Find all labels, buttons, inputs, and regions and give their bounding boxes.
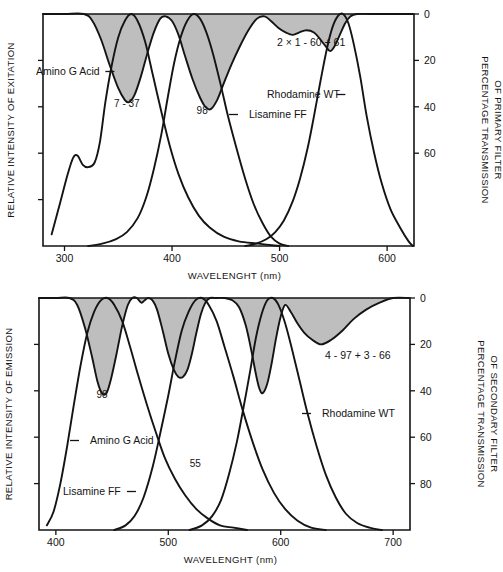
y-right-axis-title-line2: OF SECONDARY FILTER [489, 356, 500, 473]
x-axis-title: WAVELENGHT (nm) [188, 270, 281, 281]
y-left-axis-title: RELATIVE INTENSITY OF EXITATION [5, 42, 16, 217]
filter-combination-label: 2 × 1 - 60 + 61 [277, 36, 345, 48]
y-right-tick-label: 0 [420, 292, 426, 304]
y-right-axis-title-line1: PERCENTAGE TRANSMISSION [480, 56, 491, 204]
y-right-tick-label: 80 [420, 478, 432, 490]
y-right-tick-label: 20 [420, 338, 432, 350]
excitation-label-group: 300400500600WAVELENGHT (nm)RELATIVE INTE… [5, 8, 503, 281]
excitation-chart-svg: 300400500600WAVELENGHT (nm)RELATIVE INTE… [0, 0, 503, 286]
filter-number-annotation: 55 [190, 458, 202, 469]
filter-number-annotation: 98 [96, 389, 108, 400]
y-right-axis-title-line1: PERCENTAGE TRANSMISSION [476, 340, 487, 488]
x-tick-label: 600 [378, 252, 396, 264]
y-right-tick-label: 60 [424, 147, 436, 159]
x-tick-label: 400 [163, 252, 181, 264]
filter-number-annotation: 98 [197, 105, 209, 116]
x-tick-label: 400 [47, 536, 65, 548]
emission-chart-panel: 400500600700WAVELENGHT (nm)RELATIVE INTE… [0, 286, 503, 572]
x-axis-title: WAVELENGHT (nm) [184, 554, 277, 565]
y-right-tick-label: 20 [424, 54, 436, 66]
y-right-tick-label: 60 [420, 431, 432, 443]
series-label-lisamine-ff: Lisamine FF [249, 108, 307, 120]
y-right-tick-label: 40 [420, 385, 432, 397]
filter-number-annotation: 7 - 37 [114, 98, 140, 109]
y-left-axis-title: RELATIVE INTENSITY OF EMISSION [3, 328, 14, 501]
series-label-lisamine-ff: Lisamine FF [63, 485, 121, 497]
excitation-chart-panel: 300400500600WAVELENGHT (nm)RELATIVE INTE… [0, 0, 503, 286]
y-right-tick-label: 40 [424, 101, 436, 113]
series-label-rhodamine-wt: Rhodamine WT [267, 88, 341, 100]
emission-chart-svg: 400500600700WAVELENGHT (nm)RELATIVE INTE… [0, 286, 503, 572]
series-label-amino-g-acid: Amino G Acid [90, 434, 154, 446]
curve-lisamine-ff [114, 298, 325, 530]
y-right-axis-title-line2: OF PRIMARY FILTER [493, 80, 503, 179]
series-label-amino-g-acid: Amino G Acid [36, 65, 100, 77]
x-tick-label: 500 [271, 252, 289, 264]
x-tick-label: 500 [160, 536, 178, 548]
series-label-rhodamine-wt: Rhodamine WT [322, 407, 396, 419]
x-tick-label: 700 [384, 536, 402, 548]
x-tick-label: 600 [272, 536, 290, 548]
x-tick-label: 300 [56, 252, 74, 264]
curve-amino-g-acid [52, 14, 280, 246]
spectra-figure: 300400500600WAVELENGHT (nm)RELATIVE INTE… [0, 0, 503, 572]
y-right-tick-label: 0 [424, 8, 430, 20]
filter-combination-label: 4 - 97 + 3 - 66 [325, 349, 391, 361]
